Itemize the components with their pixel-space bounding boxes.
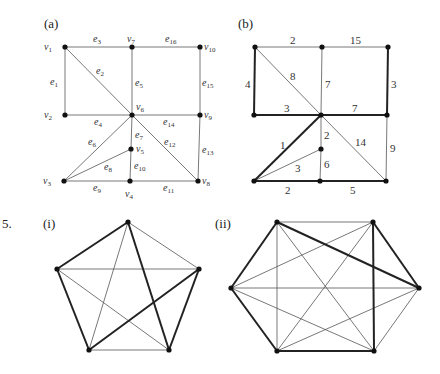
vertex-p7 — [319, 44, 324, 49]
vertex-label-v6: v6 — [136, 101, 144, 114]
edge-p9-p8 — [386, 115, 387, 181]
vertex-p4 — [317, 178, 322, 183]
edge-BR-TR — [373, 222, 374, 351]
edge-weight-label: 4 — [245, 78, 251, 90]
vertex-label-v10: v10 — [204, 41, 216, 54]
panel-label-b: (b) — [238, 16, 253, 31]
edge-v5-v4 — [130, 149, 131, 181]
edge-label-e12: e12 — [164, 136, 176, 149]
edge-v3-v5 — [64, 149, 131, 181]
edge-weight-label: 9 — [390, 142, 396, 154]
edge-T-R — [128, 222, 199, 269]
vertex-v4 — [127, 178, 132, 183]
vertex-p3 — [251, 178, 256, 183]
edge-v1-v6 — [65, 47, 132, 115]
vertex-label-v4: v4 — [125, 188, 133, 201]
edge-label-e10: e10 — [134, 160, 146, 173]
vertex-BR — [166, 347, 171, 352]
edge-R-BR — [374, 288, 419, 351]
edge-R-BL — [277, 288, 419, 351]
edge-label-e2: e2 — [96, 65, 104, 78]
edge-L-BL — [231, 288, 277, 351]
vertex-T — [125, 219, 130, 224]
edge-weight-label: 2 — [324, 129, 330, 141]
edge-T-L — [57, 222, 128, 269]
edge-weight-label: 15 — [350, 34, 362, 46]
edge-R-TL — [277, 222, 419, 288]
edge-p1-p2 — [254, 47, 255, 115]
edge-L-BR — [231, 288, 374, 351]
edge-TR-L — [231, 222, 373, 288]
edge-weight-label: 3 — [391, 78, 397, 90]
vertex-label-v1: v1 — [44, 41, 52, 54]
edge-weight-label: 7 — [352, 102, 358, 114]
edge-v6-v5 — [131, 115, 132, 149]
edge-label-e15: e15 — [202, 77, 214, 90]
vertex-v9 — [197, 112, 202, 117]
edge-label-e5: e5 — [135, 77, 143, 90]
vertex-p6 — [318, 112, 323, 117]
edge-weight-label: 1 — [280, 139, 286, 151]
edge-weight-label: 5 — [350, 184, 356, 196]
edge-weight-label: 6 — [324, 158, 330, 170]
edge-label-e13: e13 — [202, 144, 214, 157]
edge-p7-p6 — [321, 47, 322, 115]
vertex-BR — [371, 348, 376, 353]
edge-weight-label: 3 — [284, 102, 290, 114]
edge-v9-v8 — [198, 115, 200, 181]
edge-p6-p8 — [321, 115, 386, 181]
edge-p6-p3 — [254, 115, 321, 181]
vertex-v10 — [197, 44, 202, 49]
vertex-label-v5: v5 — [136, 143, 144, 156]
edge-label-e7: e7 — [135, 129, 143, 142]
edge-weight-label: 2 — [285, 184, 291, 196]
edge-label-e6: e6 — [88, 136, 96, 149]
vertex-TL — [274, 219, 279, 224]
vertex-R — [416, 285, 421, 290]
edge-weight-label: 14 — [355, 136, 367, 148]
panel-label-ii: (ii) — [215, 216, 231, 231]
vertex-p8 — [383, 178, 388, 183]
edge-label-e14: e14 — [163, 116, 175, 129]
edge-BL-R — [89, 269, 199, 350]
edge-label-e4: e4 — [94, 116, 102, 129]
panel-label-i: (i) — [43, 216, 55, 231]
edge-weight-label: 3 — [295, 162, 301, 174]
vertex-label-v9: v9 — [204, 109, 212, 122]
vertex-p10 — [385, 44, 390, 49]
vertex-R — [196, 266, 201, 271]
panel-b-weighted-graph: (b)215487337121493625 — [238, 16, 397, 196]
panel-ii-complete-graph-k6: (ii) — [215, 216, 422, 354]
edge-T-BL — [89, 222, 128, 350]
vertex-L — [228, 285, 233, 290]
edge-p3-p5 — [254, 149, 321, 181]
vertex-label-v2: v2 — [44, 109, 52, 122]
panel-i-complete-graph-k5: (i) — [43, 216, 202, 353]
vertex-L — [54, 266, 59, 271]
edge-label-e16: e16 — [165, 33, 177, 46]
edge-weight-label: 8 — [290, 70, 296, 82]
graph-figure: (a)e1e2e3e4e5e6e7e8e9e10e11e12e13e14e15e… — [0, 0, 440, 374]
edge-L-BL — [57, 269, 89, 350]
edge-label-e11: e11 — [163, 182, 175, 195]
vertex-v5 — [128, 146, 133, 151]
edge-BR-T — [128, 222, 169, 350]
vertex-BL — [86, 347, 91, 352]
vertex-v6 — [129, 112, 134, 117]
edge-p10-p9 — [387, 47, 388, 115]
vertex-label-v3: v3 — [43, 175, 51, 188]
edge-TL-L — [231, 222, 277, 288]
vertex-label-v8: v8 — [202, 175, 210, 188]
vertex-v8 — [195, 178, 200, 183]
vertex-v3 — [61, 178, 66, 183]
edge-label-e1: e1 — [50, 76, 58, 89]
edge-label-e8: e8 — [104, 161, 112, 174]
vertex-v2 — [62, 112, 67, 117]
vertex-p2 — [251, 112, 256, 117]
edge-weight-label: 7 — [325, 78, 331, 90]
vertex-p1 — [252, 44, 257, 49]
edge-p5-p4 — [320, 149, 321, 181]
problem-number: 5. — [2, 216, 12, 231]
vertex-v1 — [62, 44, 67, 49]
vertex-TR — [370, 219, 375, 224]
